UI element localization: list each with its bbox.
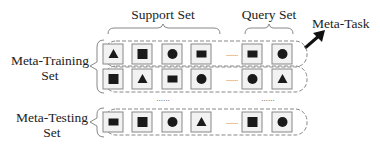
query-set-brace [245,24,293,34]
circle-icon [278,117,288,127]
sample-box [191,44,211,64]
sample-box [242,112,262,132]
circle-icon [168,49,178,59]
row-ellipsis: ...... [226,74,238,83]
task-row: ...... [103,66,307,92]
square-icon [109,74,119,84]
rectangle-icon [168,76,178,83]
rectangle-icon [109,119,119,126]
sample-box [162,69,182,89]
meta-task-label: Meta-Task [312,16,370,31]
sample-box [132,44,152,64]
arrow-icon [305,30,325,48]
sample-box [272,44,292,64]
sample-box [132,69,152,89]
sample-box [103,112,123,132]
query-set-label: Query Set [242,7,297,22]
sample-box [191,112,211,132]
support-set-label: Support Set [131,7,195,22]
circle-icon [248,74,258,84]
sample-box [272,112,292,132]
circle-icon [168,117,178,127]
meta-testing-brace [90,108,104,137]
support-set-brace [108,24,220,34]
row-ellipsis: ...... [226,117,238,126]
sample-box [162,44,182,64]
rectangle-icon [197,51,207,58]
sample-box [162,112,182,132]
sample-box [103,44,123,64]
sample-box [242,69,262,89]
rows-ellipsis-query: ...... [261,93,275,103]
square-icon [138,117,148,127]
meta-training-label-line1: Meta-Training [11,53,89,68]
meta-learning-diagram: Support Set Query Set Meta-Task Meta-Tra… [0,0,380,152]
meta-testing-label-line1: Meta-Testing [16,110,88,125]
square-icon [138,49,148,59]
rows-ellipsis-support: ...... [156,93,170,103]
circle-icon [278,49,288,59]
meta-training-brace [90,40,104,93]
square-icon [248,117,258,127]
meta-training-label-line2: Set [41,68,59,83]
sample-box [132,112,152,132]
row-ellipsis: ...... [226,49,238,58]
sample-box [103,69,123,89]
circle-icon [197,74,207,84]
rectangle-icon [248,51,258,58]
meta-testing-label-line2: Set [43,125,61,140]
task-row: ...... [103,109,307,135]
sample-box [272,69,292,89]
sample-box [242,44,262,64]
sample-box [191,69,211,89]
task-row: ...... [103,41,307,67]
